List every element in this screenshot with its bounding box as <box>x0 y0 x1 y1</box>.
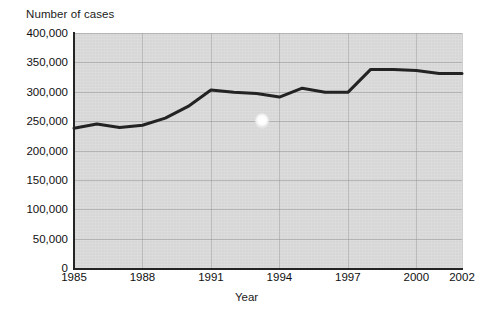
x-tick-label: 1994 <box>267 271 293 283</box>
data-series-line <box>74 33 462 268</box>
y-tick-label: 150,000 <box>2 174 68 186</box>
x-tick-label: 2000 <box>404 271 430 283</box>
y-tick-label: 200,000 <box>2 145 68 157</box>
chart-figure: Number of cases 050,000100,000150,000200… <box>0 0 493 312</box>
plot-area <box>74 33 462 268</box>
y-tick-label: 350,000 <box>2 56 68 68</box>
x-axis-tick-labels: 1985198819911994199720002002 <box>0 271 493 291</box>
gridline-vertical <box>462 33 463 268</box>
y-tick-label: 250,000 <box>2 115 68 127</box>
y-tick-label: 50,000 <box>2 233 68 245</box>
x-tick-label: 2002 <box>449 271 475 283</box>
x-tick-label: 1997 <box>335 271 361 283</box>
y-tick-label: 100,000 <box>2 203 68 215</box>
x-axis-title: Year <box>0 291 493 303</box>
y-axis-tick-labels: 050,000100,000150,000200,000250,000300,0… <box>0 0 68 312</box>
y-tick-label: 400,000 <box>2 27 68 39</box>
y-tick-label: 300,000 <box>2 86 68 98</box>
series-path-number-of-cases <box>74 69 462 128</box>
x-tick-label: 1991 <box>198 271 224 283</box>
x-tick-label: 1988 <box>130 271 156 283</box>
x-axis-line <box>73 268 463 270</box>
y-axis-line <box>73 32 75 270</box>
x-tick-label: 1985 <box>61 271 87 283</box>
